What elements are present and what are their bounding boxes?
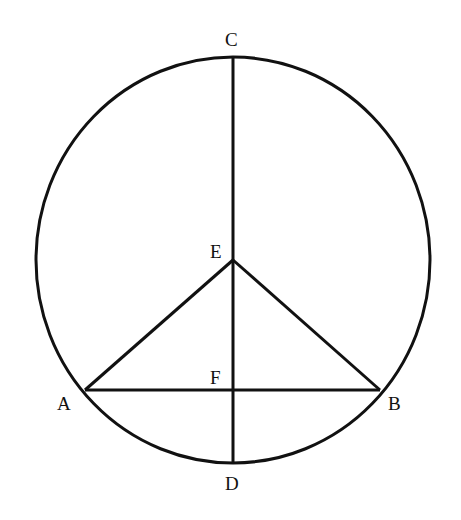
label-f: F	[210, 367, 221, 388]
label-b: B	[388, 393, 401, 414]
geometry-diagram: C E F A B D	[0, 0, 461, 520]
label-e: E	[210, 241, 222, 262]
label-a: A	[57, 393, 71, 414]
label-d: D	[225, 473, 239, 494]
label-c: C	[225, 29, 238, 50]
segment-eb	[233, 260, 380, 390]
